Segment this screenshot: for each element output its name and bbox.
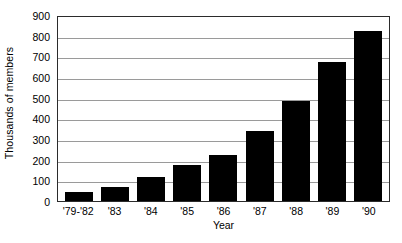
- bar-slot: [61, 17, 97, 201]
- bar-slot: [350, 17, 386, 201]
- y-tick-label: 400: [32, 114, 50, 125]
- y-axis-tick-labels: 0100200300400500600700800900: [18, 16, 54, 202]
- x-tick-label: '90: [351, 204, 387, 220]
- bars-layer: [58, 17, 389, 201]
- y-tick-label: 600: [32, 73, 50, 84]
- y-tick-label: 300: [32, 135, 50, 146]
- bar[interactable]: [354, 31, 382, 201]
- x-tick-label: '83: [96, 204, 132, 220]
- bar[interactable]: [246, 131, 274, 201]
- x-axis-title: Year: [57, 219, 390, 231]
- bar-slot: [205, 17, 241, 201]
- bar[interactable]: [209, 155, 237, 202]
- bar-slot: [97, 17, 133, 201]
- x-tick-label: '85: [169, 204, 205, 220]
- bar-slot: [314, 17, 350, 201]
- y-tick-label: 500: [32, 93, 50, 104]
- y-tick-label: 0: [44, 197, 50, 208]
- y-axis-title: Thousands of members: [0, 0, 18, 205]
- x-tick-label: '87: [242, 204, 278, 220]
- bar[interactable]: [318, 62, 346, 201]
- plot-area: [57, 16, 390, 202]
- bar-slot: [133, 17, 169, 201]
- x-tick-label: '84: [133, 204, 169, 220]
- x-tick-label: '89: [314, 204, 350, 220]
- bar[interactable]: [282, 101, 310, 201]
- bar-slot: [278, 17, 314, 201]
- y-tick-label: 900: [32, 11, 50, 22]
- y-tick-label: 800: [32, 31, 50, 42]
- x-tick-label: '86: [205, 204, 241, 220]
- x-axis-tick-labels: '79-'82'83'84'85'86'87'88'89'90: [57, 204, 390, 220]
- bar-chart-figure: Thousands of members 0100200300400500600…: [0, 0, 402, 243]
- x-tick-label: '88: [278, 204, 314, 220]
- bar[interactable]: [65, 192, 93, 201]
- y-tick-label: 200: [32, 155, 50, 166]
- y-axis-title-text: Thousands of members: [3, 46, 15, 158]
- bar-slot: [242, 17, 278, 201]
- bar-slot: [169, 17, 205, 201]
- bar[interactable]: [173, 165, 201, 201]
- y-tick-label: 100: [32, 176, 50, 187]
- x-tick-label: '79-'82: [60, 204, 96, 220]
- bar[interactable]: [137, 177, 165, 201]
- bar[interactable]: [101, 187, 129, 201]
- y-tick-label: 700: [32, 52, 50, 63]
